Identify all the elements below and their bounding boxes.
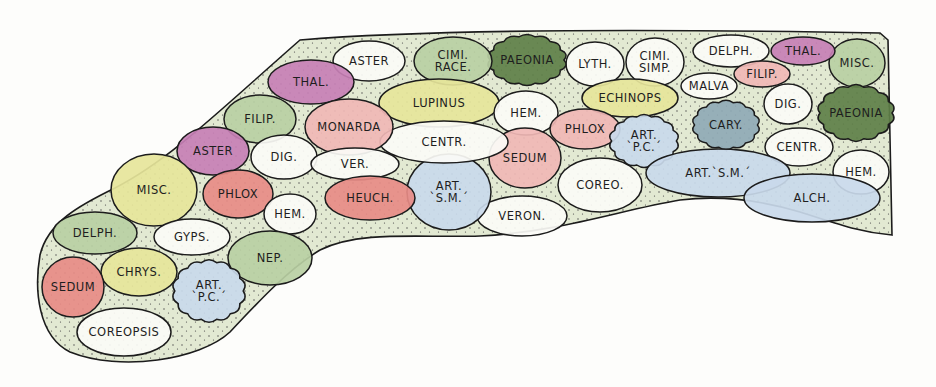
plant-label-art-pc-2: ART. `P.C.´ [192,279,227,303]
plant-label-lyth: LYTH. [578,58,612,70]
plant-label-paeonia-2: PAEONIA [829,107,883,119]
plant-label-art-sm-2: ART. `S.M.´ [429,180,468,204]
plant-label-art-pc-1: ART. `P.C.´ [627,129,662,153]
plant-label-centr-1: CENTR. [776,141,821,153]
plant-label-dig-2: DIG. [271,151,298,163]
plant-label-hem-2: HEM. [845,166,877,178]
plant-label-cimi-race: CIMI. RACE. [435,49,472,73]
plant-label-ver: VER. [341,158,369,170]
plant-label-malva: MALVA [689,80,729,92]
plant-label-dig-1: DIG. [775,98,802,110]
plant-label-filip-1: FILIP. [746,68,778,80]
plant-label-sedum-1: SEDUM [503,152,547,164]
plant-label-cimi-simp: CIMI. SIMP. [639,50,671,74]
plant-label-aster-2: ASTER [193,145,233,157]
plant-label-coreo: COREO. [576,179,624,191]
plant-label-veron: VERON. [498,210,545,222]
plant-label-thal-2: THAL. [293,76,329,88]
plant-label-phlox-2: PHLOX [218,188,258,200]
plant-label-centr-2: CENTR. [421,136,466,148]
plant-label-misc-left: MISC. [137,184,172,196]
plant-label-hem-3: HEM. [274,208,306,220]
plant-label-phlox-1: PHLOX [565,123,605,135]
plant-label-sedum-2: SEDUM [51,281,95,293]
plant-label-heuch: HEUCH. [346,192,393,204]
plant-label-cary: CARY. [709,119,743,131]
plant-label-echinops: ECHINOPS [598,92,661,104]
plant-label-paeonia-1: PAEONIA [500,54,554,66]
plant-label-gyps: GYPS. [174,231,210,243]
plant-label-alch: ALCH. [794,192,831,204]
plant-label-thal-1: THAL. [785,45,821,57]
plant-label-hem-1: HEM. [510,107,542,119]
plant-label-delph-1: DELPH. [709,45,754,57]
plant-label-chrys: CHRYS. [117,266,162,278]
plant-label-misc-top-right: MISC. [840,57,875,69]
plant-label-coreopsis: COREOPSIS [89,326,160,338]
plant-label-lupinus: LUPINUS [413,97,465,109]
plant-label-delph-2: DELPH. [73,227,118,239]
plant-label-monarda: MONARDA [317,121,380,133]
plant-label-nep: NEP. [257,252,284,264]
plant-label-art-sm-1: ART.`S.M.´ [685,167,750,179]
plant-label-filip-2: FILIP. [244,113,276,125]
plant-label-aster-1: ASTER [349,55,389,67]
